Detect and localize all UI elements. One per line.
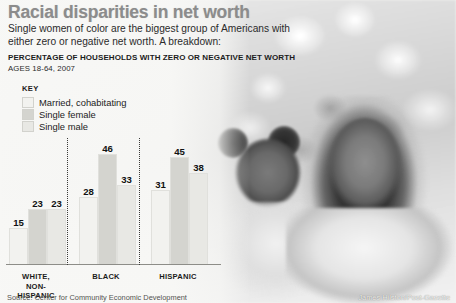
legend-swatch-single-female <box>22 109 34 120</box>
bar-hispanic-single-male: 38 <box>189 173 208 264</box>
legend-item-married: Married, cohabitating <box>22 96 127 108</box>
chart-subhead: PERCENTAGE OF HOUSEHOLDS WITH ZERO OR NE… <box>8 53 295 62</box>
legend-label-married: Married, cohabitating <box>39 97 127 108</box>
bar-group-white-non-hispanic: 15 23 23 WHITE, NON-HISPANIC <box>8 146 64 264</box>
bar-chart: 15 23 23 WHITE, NON-HISPANIC 28 46 33 <box>0 140 250 265</box>
chart-legend: KEY Married, cohabitating Single female … <box>22 84 127 132</box>
bar-black-single-female: 46 <box>98 154 117 264</box>
bar-value-white-married: 15 <box>13 217 24 228</box>
bar-black-single-male: 33 <box>117 185 136 264</box>
legend-label-single-male: Single male <box>39 121 88 132</box>
group-label-line1: WHITE, <box>8 272 64 282</box>
group-divider-2 <box>139 138 140 265</box>
page-deck: Single women of color are the biggest gr… <box>8 23 318 48</box>
bar-group-black: 28 46 33 BLACK <box>78 146 134 264</box>
bar-value-white-single-female: 23 <box>32 198 43 209</box>
infographic-root: Racial disparities in net worth Single w… <box>0 0 456 303</box>
group-label-line1: BLACK <box>78 272 134 282</box>
legend-item-single-male: Single male <box>22 120 127 132</box>
bar-value-black-single-male: 33 <box>121 174 132 185</box>
bar-white-single-male: 23 <box>47 209 66 264</box>
chart-ages-note: AGES 18-64, 2007 <box>8 64 75 73</box>
bar-value-hispanic-single-male: 38 <box>193 162 204 173</box>
legend-label-single-female: Single female <box>39 109 96 120</box>
bar-hispanic-single-female: 45 <box>170 157 189 264</box>
bar-value-hispanic-married: 31 <box>155 179 166 190</box>
bar-hispanic-married: 31 <box>151 190 170 264</box>
bar-value-black-single-female: 46 <box>102 143 113 154</box>
chart-baseline <box>6 264 221 265</box>
photo-woman-face <box>328 118 402 214</box>
group-divider-1 <box>67 138 68 265</box>
bar-white-married: 15 <box>9 228 28 264</box>
group-label-black: BLACK <box>78 272 134 282</box>
legend-swatch-married <box>22 97 34 108</box>
legend-title: KEY <box>22 84 127 93</box>
bar-black-married: 28 <box>79 197 98 264</box>
bar-white-single-female: 23 <box>28 209 47 264</box>
photo-woman-body <box>286 208 456 303</box>
bar-value-white-single-male: 23 <box>51 198 62 209</box>
bar-group-hispanic: 31 45 38 HISPANIC <box>150 146 206 264</box>
source-note: Source: Center for Community Economic De… <box>7 293 187 302</box>
group-label-hispanic: HISPANIC <box>150 272 206 282</box>
legend-swatch-single-male <box>22 121 34 132</box>
bar-value-hispanic-single-female: 45 <box>174 146 185 157</box>
group-label-line1: HISPANIC <box>150 272 206 282</box>
legend-item-single-female: Single female <box>22 108 127 120</box>
photo-credit: James Hilston/Post-Gazette <box>358 293 450 302</box>
page-title: Racial disparities in net worth <box>8 2 250 23</box>
bar-value-black-married: 28 <box>83 186 94 197</box>
